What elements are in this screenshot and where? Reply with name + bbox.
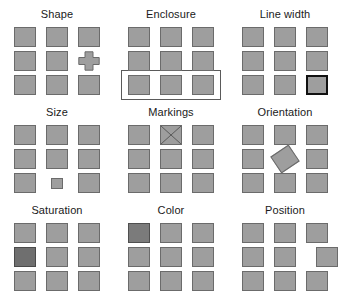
panel-enclosure: Enclosure [114,0,228,98]
square-glyph [78,173,100,193]
square-glyph [242,173,264,193]
target-square-line-width [306,75,328,95]
square [78,75,100,95]
square [192,173,214,193]
square-grid-size [0,123,114,195]
square [192,75,214,95]
square-glyph [274,75,296,95]
square [274,125,296,145]
square-glyph [78,247,100,267]
square-glyph [128,27,150,47]
square-glyph [128,51,150,71]
square-glyph [242,149,264,169]
panel-markings: Markings [114,98,228,196]
square-glyph [160,173,182,193]
square-grid-enclosure [114,25,228,97]
square [274,223,296,243]
target-square-markings [160,125,182,145]
square-glyph [128,247,150,267]
target-square-saturation [14,247,36,267]
square-glyph [46,125,68,145]
square [306,223,328,243]
square-glyph [160,247,182,267]
square [128,149,150,169]
square-glyph [128,173,150,193]
square [78,173,100,193]
square-glyph [192,271,214,291]
target-square-color [128,223,150,243]
square [192,27,214,47]
square [128,247,150,267]
square [14,51,36,71]
panel-title-saturation: Saturation [0,204,114,216]
square-glyph [128,271,150,291]
square [128,173,150,193]
square [46,223,68,243]
square-glyph [192,125,214,145]
square-grid-position [228,221,342,293]
square [78,149,100,169]
panel-title-shape: Shape [0,8,114,20]
square [46,51,68,71]
square [46,271,68,291]
square-glyph [242,247,264,267]
square-glyph [306,75,328,95]
square-glyph [14,247,36,267]
square [78,271,100,291]
square [274,247,296,267]
square-glyph [160,271,182,291]
square [160,149,182,169]
target-square-shape [78,51,100,71]
square-glyph [242,27,264,47]
square [306,271,328,291]
square [306,173,328,193]
square-glyph [160,27,182,47]
panel-line-width: Line width [228,0,342,98]
square-glyph [160,51,182,71]
square [160,27,182,47]
panel-size: Size [0,98,114,196]
square-glyph [306,173,328,193]
square-glyph [78,149,100,169]
square [274,51,296,71]
panel-title-color: Color [114,204,228,216]
panel-color: Color [114,196,228,294]
square-grid-markings [114,123,228,195]
square-glyph [14,173,36,193]
square-glyph [306,149,328,169]
square-glyph [14,27,36,47]
square [128,27,150,47]
square [274,173,296,193]
square [274,27,296,47]
square [160,173,182,193]
square [160,247,182,267]
square-glyph [78,223,100,243]
square [128,51,150,71]
square [14,173,36,193]
square [274,271,296,291]
square-glyph [274,247,296,267]
square-glyph [242,223,264,243]
square-glyph [160,75,182,95]
square [78,247,100,267]
square-glyph [270,145,299,174]
square [306,51,328,71]
square [14,75,36,95]
square [78,223,100,243]
square-glyph [128,149,150,169]
square [306,27,328,47]
square-glyph [14,51,36,71]
square [14,125,36,145]
square-glyph [306,271,328,291]
square-glyph [242,271,264,291]
square-glyph [51,178,63,189]
square [46,149,68,169]
square [192,125,214,145]
panel-position: Position [228,196,342,294]
square-glyph [274,173,296,193]
square-glyph [14,149,36,169]
square-grid-shape [0,25,114,97]
square [160,223,182,243]
square [128,75,150,95]
square-glyph [306,27,328,47]
